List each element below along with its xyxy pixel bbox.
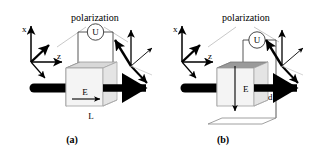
- panel-caption-b: (b): [217, 134, 229, 146]
- thickness-label-b: d: [268, 92, 273, 102]
- crystal-right-face-b: [254, 62, 268, 106]
- meter-label-a: U: [92, 27, 99, 37]
- length-label-a: L: [88, 111, 94, 121]
- electro-optic-modulator-figure: U x z y E: [0, 0, 321, 165]
- axis-label-z-b: z: [208, 51, 212, 61]
- voltage-meter-b: U: [249, 32, 265, 48]
- polarization-label-b: polarization: [222, 12, 270, 23]
- field-label-a: E: [82, 87, 88, 97]
- crystal-right-face-a: [103, 62, 117, 106]
- panel-caption-a: (a): [66, 134, 78, 146]
- voltage-meter-a: U: [87, 24, 103, 40]
- axis-label-x-a: x: [22, 24, 27, 34]
- figure-background: [0, 0, 321, 165]
- polarization-label-a: polarization: [71, 12, 119, 23]
- axis-label-z-a: z: [57, 51, 61, 61]
- meter-label-b: U: [254, 35, 261, 45]
- field-label-b: E: [243, 84, 249, 94]
- figure-root: U x z y E: [0, 0, 321, 165]
- axis-label-x-b: x: [173, 24, 178, 34]
